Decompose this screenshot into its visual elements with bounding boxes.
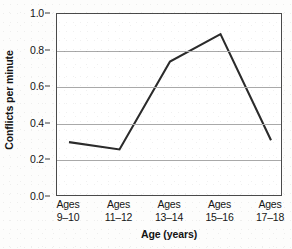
- x-tick-label-line: Ages: [155, 198, 183, 211]
- x-tick-label-line: Ages: [205, 198, 233, 211]
- y-tick-label: 1.0: [30, 7, 44, 19]
- gridline-0.8: [57, 51, 281, 52]
- data-series-line: [57, 14, 282, 196]
- y-tick-mark: [45, 122, 50, 123]
- y-tick-label: 0.0: [30, 190, 44, 202]
- y-tick-label: 0.8: [30, 44, 44, 56]
- gridline-0.4: [57, 124, 281, 125]
- x-tick-label-line: 17–18: [256, 211, 284, 224]
- y-axis-title-text: Conflicts per minute: [3, 50, 15, 150]
- x-tick-label: Ages9–10: [56, 198, 79, 223]
- y-tick-mark: [45, 159, 50, 160]
- x-tick-label-line: 11–12: [105, 211, 132, 224]
- line-chart-figure: Conflicts per minute 0.00.20.40.60.81.0 …: [0, 0, 292, 249]
- x-tick-label-line: 13–14: [155, 211, 183, 224]
- y-tick-mark: [45, 13, 50, 14]
- x-tick-label-line: Ages: [256, 198, 284, 211]
- x-tick-label: Ages11–12: [105, 198, 132, 223]
- plot-area: [56, 13, 282, 196]
- x-tick-label-line: Ages: [56, 198, 79, 211]
- y-tick-label: 0.4: [30, 117, 44, 129]
- y-tick-mark: [45, 86, 50, 87]
- gridline-0.6: [57, 87, 281, 88]
- y-axis-tick-labels: 0.00.20.40.60.81.0: [16, 0, 50, 249]
- y-tick-label: 0.6: [30, 80, 44, 92]
- y-tick-mark: [45, 196, 50, 197]
- x-tick-label-line: Ages: [105, 198, 132, 211]
- y-tick-mark: [45, 49, 50, 50]
- x-tick-label: Ages17–18: [256, 198, 284, 223]
- x-tick-label-line: 15–16: [205, 211, 233, 224]
- x-axis-title: Age (years): [56, 228, 282, 240]
- x-tick-label: Ages13–14: [155, 198, 183, 223]
- x-tick-label: Ages15–16: [205, 198, 233, 223]
- y-tick-label: 0.2: [30, 153, 44, 165]
- gridline-0.2: [57, 160, 281, 161]
- x-axis-tick-labels: Ages9–10Ages11–12Ages13–14Ages15–16Ages1…: [56, 198, 282, 232]
- x-tick-label-line: 9–10: [56, 211, 79, 224]
